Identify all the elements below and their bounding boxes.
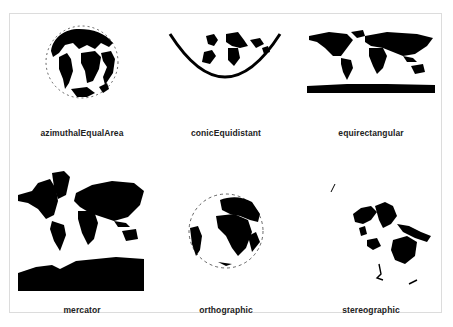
panel-label: orthographic [154,305,298,315]
panel-label: mercator [10,305,154,315]
map-stereographic [327,180,443,288]
panel-conic-equidistant: conicEquidistant [154,14,298,164]
map-orthographic [186,192,266,270]
panel-label: azimuthalEqualArea [10,128,154,138]
panel-mercator: mercator [10,164,154,314]
map-azimuthal-equal-area [43,23,121,103]
panel-orthographic: orthographic [154,164,298,314]
panel-stereographic: stereographic [299,164,443,314]
panel-label: equirectangular [299,128,443,138]
panel-azimuthal-equal-area: azimuthalEqualArea [10,14,154,164]
panel-label: stereographic [299,305,443,315]
panel-label: conicEquidistant [154,128,298,138]
map-mercator [16,169,146,291]
map-equirectangular [307,30,435,94]
map-conic-equidistant [168,32,282,84]
panel-equirectangular: equirectangular [299,14,443,164]
projection-gallery-frame: azimuthalEqualArea conicEquidistant [9,13,442,313]
